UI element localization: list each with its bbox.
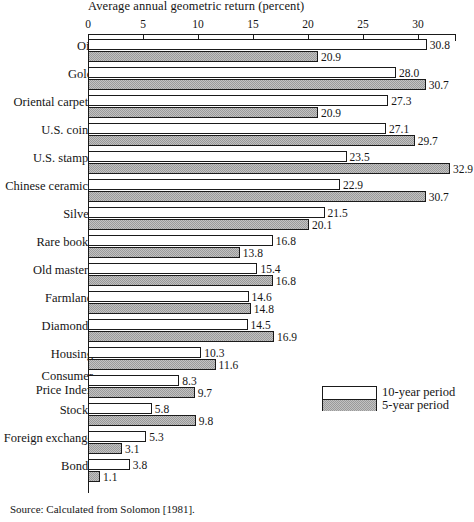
source-note: Source: Calculated from Solomon [1981]. bbox=[10, 503, 195, 515]
bar-5-year bbox=[88, 443, 122, 454]
bar-10-year bbox=[88, 431, 146, 442]
bar-row: Housing10.311.6 bbox=[0, 344, 474, 372]
bar-row: Gold28.030.7 bbox=[0, 64, 474, 92]
bar-10-year bbox=[88, 123, 386, 134]
bar-10-year bbox=[88, 319, 248, 330]
bar-10-year bbox=[88, 39, 427, 50]
bar-5-year bbox=[88, 331, 274, 342]
bar-value-label: 27.3 bbox=[391, 96, 411, 107]
bar-5-year bbox=[88, 247, 240, 258]
bar-row: Silver21.520.1 bbox=[0, 204, 474, 232]
bar-value-label: 20.9 bbox=[321, 108, 341, 119]
category-label: Housing bbox=[0, 348, 93, 361]
bar-10-year bbox=[88, 291, 249, 302]
category-label: Stocks bbox=[0, 404, 93, 417]
chart-container: Average annual geometric return (percent… bbox=[0, 0, 474, 522]
bar-5-year bbox=[88, 275, 273, 286]
bar-row: Chinese ceramics22.930.7 bbox=[0, 176, 474, 204]
bar-value-label: 15.4 bbox=[260, 264, 280, 275]
bar-value-label: 20.1 bbox=[312, 220, 332, 231]
bar-5-year bbox=[88, 163, 450, 174]
legend-swatch-box bbox=[322, 386, 377, 411]
bar-row: Oriental carpets27.320.9 bbox=[0, 92, 474, 120]
bar-10-year bbox=[88, 207, 325, 218]
bar-value-label: 11.6 bbox=[219, 360, 239, 371]
bar-value-label: 32.9 bbox=[453, 164, 473, 175]
bar-10-year bbox=[88, 67, 396, 78]
bar-value-label: 5.8 bbox=[155, 404, 169, 415]
bar-row: Foreign exchange5.33.1 bbox=[0, 428, 474, 456]
bar-5-year bbox=[88, 107, 318, 118]
bar-5-year bbox=[88, 387, 195, 398]
category-label: Old masters bbox=[0, 264, 93, 277]
bar-5-year bbox=[88, 51, 318, 62]
category-label: Rare books bbox=[0, 236, 93, 249]
bar-value-label: 30.7 bbox=[429, 80, 449, 91]
bar-value-label: 14.8 bbox=[254, 304, 274, 315]
bar-value-label: 28.0 bbox=[399, 68, 419, 79]
bar-value-label: 5.3 bbox=[149, 432, 163, 443]
bar-10-year bbox=[88, 179, 340, 190]
category-label: Farmland bbox=[0, 292, 93, 305]
axis-tick-label: 10 bbox=[192, 18, 204, 30]
bar-rows: Oil30.820.9Gold28.030.7Oriental carpets2… bbox=[0, 36, 474, 484]
bar-5-year bbox=[88, 191, 426, 202]
bar-5-year bbox=[88, 415, 196, 426]
bar-10-year bbox=[88, 403, 152, 414]
axis-tick-label: 30 bbox=[412, 18, 424, 30]
chart-title: Average annual geometric return (percent… bbox=[88, 0, 304, 14]
bar-value-label: 30.7 bbox=[429, 192, 449, 203]
bar-5-year bbox=[88, 359, 216, 370]
bar-row: U.S. coins27.129.7 bbox=[0, 120, 474, 148]
bar-5-year bbox=[88, 79, 426, 90]
bar-10-year bbox=[88, 459, 130, 470]
bar-value-label: 21.5 bbox=[328, 208, 348, 219]
bar-10-year bbox=[88, 235, 273, 246]
axis-tick-label: 5 bbox=[140, 18, 146, 30]
bar-value-label: 14.5 bbox=[251, 320, 271, 331]
bar-row: Farmland14.614.8 bbox=[0, 288, 474, 316]
legend-label-5-year: 5-year period bbox=[382, 398, 449, 413]
category-label: Bonds bbox=[0, 460, 93, 473]
bar-row: Bonds3.81.1 bbox=[0, 456, 474, 484]
category-label: U.S. coins bbox=[0, 124, 93, 137]
axis-tick-label: 25 bbox=[357, 18, 369, 30]
legend-swatch-5-year bbox=[323, 399, 376, 411]
axis-tick-label: 0 bbox=[85, 18, 91, 30]
bar-value-label: 20.9 bbox=[321, 52, 341, 63]
bar-value-label: 1.1 bbox=[103, 472, 117, 483]
category-label: Foreign exchange bbox=[0, 432, 93, 445]
legend-swatch-10-year bbox=[323, 387, 376, 398]
bar-row: Oil30.820.9 bbox=[0, 36, 474, 64]
bar-value-label: 14.6 bbox=[252, 292, 272, 303]
bar-value-label: 16.9 bbox=[277, 332, 297, 343]
category-label: Gold bbox=[0, 68, 93, 81]
bar-row: Diamonds14.516.9 bbox=[0, 316, 474, 344]
bar-value-label: 10.3 bbox=[204, 348, 224, 359]
bar-value-label: 3.1 bbox=[125, 444, 139, 455]
category-label: Oriental carpets bbox=[0, 96, 93, 109]
bar-value-label: 27.1 bbox=[389, 124, 409, 135]
bar-value-label: 29.7 bbox=[418, 136, 438, 147]
bar-value-label: 22.9 bbox=[343, 180, 363, 191]
category-label-line2: Price Index bbox=[0, 384, 93, 398]
bar-value-label: 13.8 bbox=[243, 248, 263, 259]
category-label: Silver bbox=[0, 208, 93, 221]
bar-10-year bbox=[88, 151, 347, 162]
bar-value-label: 9.7 bbox=[198, 388, 212, 399]
bar-row: Old masters15.416.8 bbox=[0, 260, 474, 288]
bar-value-label: 9.8 bbox=[199, 416, 213, 427]
bar-row: U.S. stamps23.532.9 bbox=[0, 148, 474, 176]
bar-10-year bbox=[88, 95, 388, 106]
category-label: U.S. stamps bbox=[0, 152, 93, 165]
bar-value-label: 3.8 bbox=[133, 460, 147, 471]
bar-5-year bbox=[88, 219, 309, 230]
axis-tick-label: 15 bbox=[247, 18, 259, 30]
bar-10-year bbox=[88, 375, 179, 386]
bar-value-label: 16.8 bbox=[276, 236, 296, 247]
bar-10-year bbox=[88, 347, 201, 358]
bar-5-year bbox=[88, 135, 415, 146]
bar-value-label: 30.8 bbox=[430, 40, 450, 51]
bar-value-label: 23.5 bbox=[350, 152, 370, 163]
bar-5-year bbox=[88, 471, 100, 482]
